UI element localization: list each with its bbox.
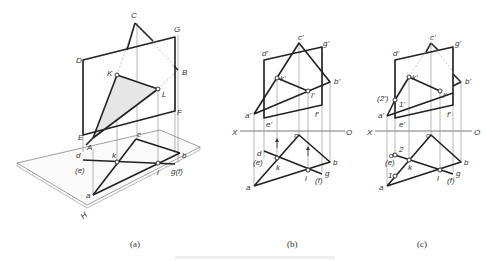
label-l1: l' (311, 91, 315, 100)
label-k: k (408, 163, 413, 172)
caption-b: (b) (287, 239, 298, 249)
label-f1: f' (315, 110, 319, 119)
label-b: b (333, 158, 338, 167)
label-a1: a' (245, 111, 251, 120)
triangle-edge (135, 23, 153, 41)
line-v (453, 74, 461, 82)
label-g: g (456, 169, 461, 178)
label-c: c (294, 131, 298, 140)
label-K: K (107, 69, 113, 78)
label-E: E (78, 133, 84, 142)
panel-a: C G D K B L F E A c d (e) k b l g(f) a H… (17, 11, 200, 249)
label-F: F (177, 108, 183, 117)
label-f: (f) (315, 176, 323, 185)
label-d: d (76, 151, 81, 160)
point-l (438, 168, 442, 172)
label-c: c (137, 130, 141, 139)
label-e: (e) (385, 158, 395, 167)
point-k (407, 158, 411, 162)
point-l (156, 161, 160, 165)
label-1-prime: 1' (399, 100, 405, 109)
panel-b: X O c' g' d' k' b' l' a' e' f' (231, 33, 352, 249)
point-l (306, 168, 310, 172)
label-g1: g' (455, 39, 461, 48)
point-L (156, 87, 160, 91)
label-e1: e' (399, 120, 405, 129)
label-a: a (86, 191, 91, 200)
label-c1: c' (298, 33, 304, 42)
label-b: b (464, 158, 469, 167)
triangle-edge (127, 23, 135, 50)
label-g: g (325, 169, 330, 178)
label-d1: d' (262, 49, 268, 58)
label-O: O (346, 128, 352, 137)
arrow-head (306, 146, 310, 150)
caption-c: (c) (417, 239, 427, 249)
point-2 (393, 153, 397, 157)
label-e: (e) (75, 166, 85, 175)
label-d: d (257, 149, 262, 158)
point-k (275, 156, 279, 160)
line-v (426, 43, 431, 52)
plane-dg-v (264, 47, 322, 118)
label-e: (e) (253, 158, 263, 167)
label-X: X (231, 128, 238, 137)
label-l1: l' (443, 91, 447, 100)
label-a1: a' (378, 111, 384, 120)
line-dg-h (395, 155, 453, 174)
line-dg-h (264, 151, 322, 174)
triangle-shade (93, 75, 158, 138)
label-G: G (174, 25, 180, 34)
label-k: k (276, 163, 281, 172)
label-e1: e' (266, 120, 272, 129)
label-b1: b' (334, 77, 340, 86)
point-k1 (407, 75, 411, 79)
label-b1: b' (465, 77, 471, 86)
point-k (115, 160, 119, 164)
label-g1: g' (323, 39, 329, 48)
label-k1: k' (412, 73, 418, 82)
label-a: a (379, 183, 384, 192)
label-H: H (79, 210, 89, 221)
label-O: O (474, 128, 480, 137)
point-1 (393, 174, 397, 178)
label-l: l (157, 168, 159, 177)
line-v (395, 77, 409, 100)
label-X: X (366, 128, 373, 137)
label-B: B (182, 68, 188, 77)
point-l1 (306, 89, 310, 93)
point-K (115, 73, 119, 77)
point-l1 (438, 89, 442, 93)
projection-diagram: C G D K B L F E A c d (e) k b l g(f) a H… (0, 0, 487, 261)
label-l: l (305, 174, 307, 183)
point-1-2 (393, 98, 397, 102)
point-k1 (275, 76, 279, 80)
label-gf: g(f) (171, 167, 183, 176)
label-c1: c' (430, 33, 436, 42)
label-f: (f) (447, 176, 455, 185)
label-b: b (182, 151, 187, 160)
label-1: 1 (388, 171, 392, 180)
label-f1: f' (447, 110, 451, 119)
label-L: L (162, 90, 166, 99)
panel-c: X O c' g' d' k' b (366, 33, 480, 249)
label-D: D (76, 56, 82, 65)
label-d1: d' (393, 49, 399, 58)
caption-a: (a) (130, 239, 140, 249)
label-c: c (426, 131, 430, 140)
line-v (453, 82, 461, 86)
label-2: 2 (398, 145, 404, 154)
label-a: a (246, 183, 251, 192)
label-2-prime: (2') (377, 94, 389, 103)
label-A: A (86, 143, 92, 152)
label-l: l (437, 174, 439, 183)
label-k1: k' (280, 74, 286, 83)
arrow-head (275, 138, 279, 142)
label-C: C (131, 11, 137, 20)
faded-caption (175, 256, 335, 259)
